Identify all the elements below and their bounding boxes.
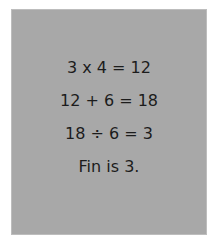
math-card: 3 x 4 = 12 12 + 6 = 18 18 ÷ 6 = 3 Fin is… bbox=[12, 10, 206, 234]
equation-multiply: 3 x 4 = 12 bbox=[12, 58, 206, 78]
equation-add: 12 + 6 = 18 bbox=[12, 91, 206, 111]
answer-statement: Fin is 3. bbox=[12, 157, 206, 177]
equation-divide: 18 ÷ 6 = 3 bbox=[12, 124, 206, 144]
